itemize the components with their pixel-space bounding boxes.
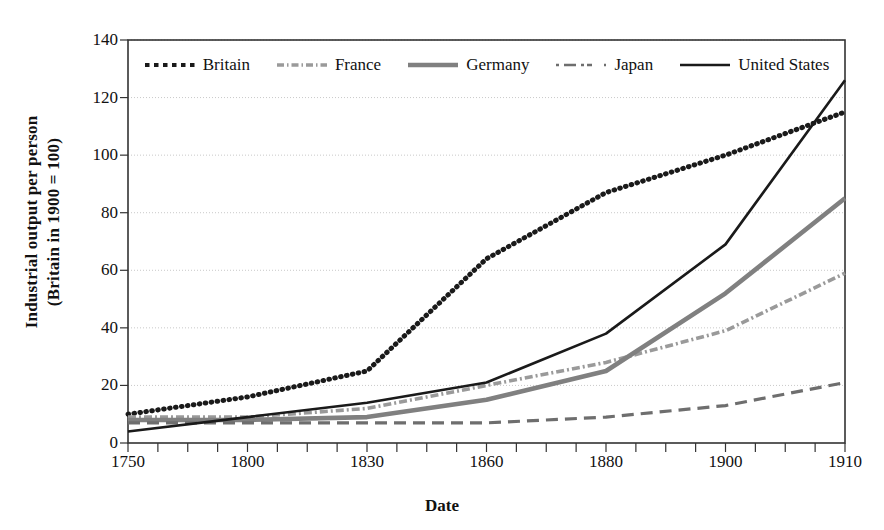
series-line-britain <box>128 112 845 414</box>
industrial-output-line-chart: Industrial output per person (Britain in… <box>0 0 884 530</box>
series-line-france <box>128 273 845 417</box>
series-line-germany <box>128 198 845 420</box>
series-line-united-states <box>128 80 845 431</box>
plot-area <box>0 0 884 530</box>
